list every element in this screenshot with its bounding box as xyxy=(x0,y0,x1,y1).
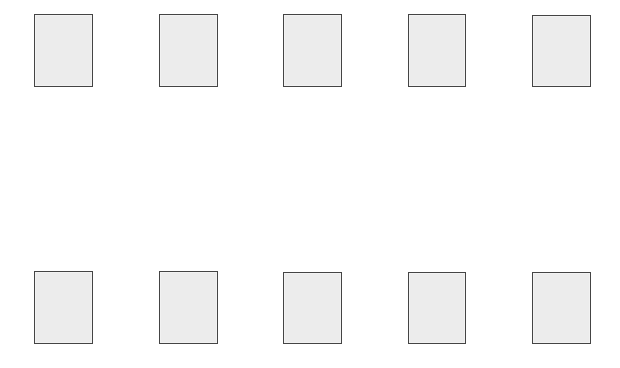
card-bottom-1[interactable] xyxy=(34,271,93,344)
card-top-2[interactable] xyxy=(159,14,218,87)
card-top-1[interactable] xyxy=(34,14,93,87)
card-bottom-2[interactable] xyxy=(159,271,218,344)
card-bottom-3[interactable] xyxy=(283,272,342,344)
canvas xyxy=(0,0,620,368)
card-top-3[interactable] xyxy=(283,14,342,87)
card-top-4[interactable] xyxy=(408,14,466,87)
card-bottom-5[interactable] xyxy=(532,272,591,344)
card-bottom-4[interactable] xyxy=(408,272,466,344)
card-top-5[interactable] xyxy=(532,15,591,87)
